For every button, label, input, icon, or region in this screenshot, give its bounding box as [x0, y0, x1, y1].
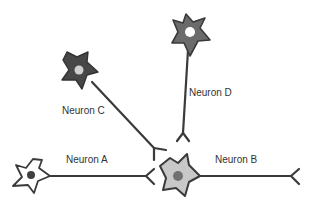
neuron-a-axon: [48, 169, 154, 184]
neuron-b-soma: [160, 154, 200, 196]
neuron-a-nucleus: [27, 171, 35, 179]
neuron-d-soma: [172, 14, 210, 56]
neuron-c-axon: [92, 82, 166, 160]
neuron-b-label: Neuron B: [215, 154, 257, 165]
neuron-diagram: [0, 0, 314, 206]
neuron-d-label: Neuron D: [189, 87, 232, 98]
neuron-a-soma: [13, 159, 50, 193]
neuron-c-nucleus: [75, 66, 84, 75]
neuron-c-label: Neuron C: [62, 105, 105, 116]
neuron-d-nucleus: [185, 27, 195, 37]
neuron-b-axon: [200, 169, 299, 184]
neuron-b-nucleus: [173, 171, 183, 181]
neuron-d-axon: [177, 50, 189, 141]
neuron-a-label: Neuron A: [66, 154, 108, 165]
